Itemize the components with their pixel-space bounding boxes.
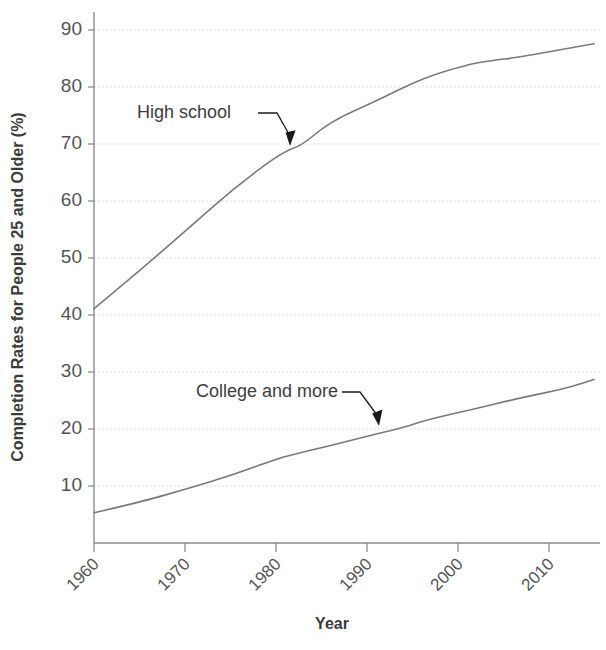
x-tick-label-2010: 2010 — [518, 554, 558, 594]
x-axis-tick-labels: 1960 1970 1980 1990 2000 2010 — [63, 554, 558, 594]
x-tick-label-2000: 2000 — [427, 554, 467, 594]
y-tick-label-90: 90 — [61, 18, 82, 39]
y-tick-label-30: 30 — [61, 360, 82, 381]
y-tick-label-20: 20 — [61, 417, 82, 438]
x-tick-label-1960: 1960 — [63, 554, 103, 594]
y-axis-title: Completion Rates for People 25 and Older… — [9, 112, 26, 461]
y-tick-label-10: 10 — [61, 474, 82, 495]
series-line-high-school — [94, 44, 594, 309]
y-axis-tick-labels: 90 80 70 60 50 40 30 20 10 — [61, 18, 82, 495]
y-tick-label-70: 70 — [61, 132, 82, 153]
x-tick-label-1970: 1970 — [154, 554, 194, 594]
x-axis-ticks — [94, 543, 549, 552]
y-axis-ticks — [88, 30, 94, 486]
series-line-college-and-more — [94, 379, 594, 512]
y-tick-label-40: 40 — [61, 303, 82, 324]
y-tick-label-50: 50 — [61, 246, 82, 267]
y-tick-label-80: 80 — [61, 75, 82, 96]
gridlines — [94, 30, 600, 486]
annotation-arrow-college-and-more — [372, 410, 382, 426]
annotation-leader-college-and-more — [342, 392, 377, 415]
x-tick-label-1990: 1990 — [336, 554, 376, 594]
annotation-leader-high-school — [258, 113, 290, 136]
annotation-label-high-school: High school — [137, 102, 231, 122]
annotation-high-school: High school — [137, 102, 296, 146]
line-chart: 90 80 70 60 50 40 30 20 10 Completion Ra… — [0, 0, 606, 650]
chart-container: 90 80 70 60 50 40 30 20 10 Completion Ra… — [0, 0, 606, 650]
x-axis-title: Year — [315, 615, 349, 632]
x-tick-label-1980: 1980 — [245, 554, 285, 594]
y-tick-label-60: 60 — [61, 189, 82, 210]
annotation-label-college-and-more: College and more — [196, 381, 338, 401]
annotation-college-and-more: College and more — [196, 381, 382, 426]
